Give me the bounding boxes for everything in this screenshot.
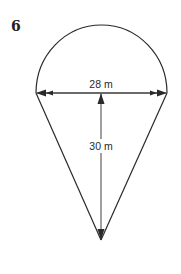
arrowhead-up-icon (98, 93, 105, 104)
triangle-right-side (101, 93, 167, 240)
triangle-left-side (36, 93, 101, 240)
height-label: 30 m (89, 140, 113, 152)
cone-semicircle-figure: 28 m 30 m (0, 0, 181, 274)
diameter-label: 28 m (89, 78, 113, 90)
